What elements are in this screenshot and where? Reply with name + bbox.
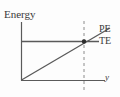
x-axis-title: y bbox=[105, 73, 109, 82]
pe-label: PE bbox=[99, 24, 111, 34]
y-axis-title: Energy bbox=[4, 9, 36, 20]
energy-diagram-figure: Energy PE TE y bbox=[0, 0, 120, 97]
pe-line bbox=[22, 28, 111, 80]
intersection-dot bbox=[82, 39, 86, 43]
te-label: TE bbox=[99, 36, 111, 46]
